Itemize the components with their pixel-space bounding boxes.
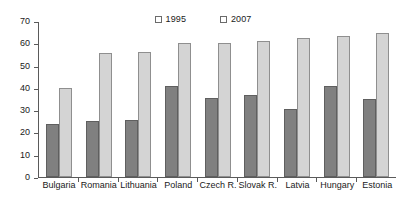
y-axis-tick-label: 60 xyxy=(20,38,30,49)
x-axis-label-Bulgaria: Bulgaria xyxy=(39,180,79,191)
bar-1995-Poland xyxy=(165,86,178,177)
bar-group xyxy=(317,22,357,177)
bar-1995-SlovakR xyxy=(244,95,257,177)
plot-area: 010203040506070 xyxy=(38,22,396,178)
bar-1995-CzechR xyxy=(205,98,218,177)
x-axis-label-Estonia: Estonia xyxy=(357,180,397,191)
bar-1995-Latvia xyxy=(284,109,297,177)
y-axis-tick: 70 xyxy=(34,22,38,23)
bar-1995-Lithuania xyxy=(125,120,138,177)
x-axis-label-Hungary: Hungary xyxy=(317,180,357,191)
bar-2007-Lithuania xyxy=(138,52,151,177)
y-axis-tick: 20 xyxy=(34,133,38,134)
y-axis-tick: 10 xyxy=(34,156,38,157)
bar-2007-SlovakR xyxy=(257,41,270,177)
bar-2007-CzechR xyxy=(218,43,231,177)
y-axis-tick: 30 xyxy=(34,111,38,112)
x-axis-label-Poland: Poland xyxy=(158,180,198,191)
x-axis-label-CzechR: Czech R. xyxy=(198,180,238,191)
bar-group xyxy=(158,22,198,177)
bar-group xyxy=(79,22,119,177)
bar-group xyxy=(356,22,396,177)
bar-1995-Estonia xyxy=(363,99,376,177)
bar-1995-Romania xyxy=(86,121,99,177)
bar-2007-Romania xyxy=(99,53,112,177)
bar-2007-Poland xyxy=(178,43,191,177)
y-axis-tick: 50 xyxy=(34,67,38,68)
y-axis-tick-label: 0 xyxy=(25,172,30,183)
y-axis-tick: 40 xyxy=(34,89,38,90)
x-axis-category-labels: BulgariaRomaniaLithuaniaPolandCzech R.Sl… xyxy=(39,180,397,191)
x-axis-line xyxy=(38,177,396,178)
bar-chart: 1995 2007 010203040506070 BulgariaRomani… xyxy=(0,0,406,219)
y-axis-tick-label: 10 xyxy=(20,150,30,161)
bar-groups xyxy=(39,22,396,177)
y-axis-tick: 0 xyxy=(34,178,38,179)
x-axis-label-Romania: Romania xyxy=(79,180,119,191)
bar-2007-Estonia xyxy=(376,33,389,177)
bar-group xyxy=(198,22,238,177)
x-axis-label-SlovakR: Slovak R. xyxy=(238,180,278,191)
bar-group xyxy=(237,22,277,177)
y-axis-tick-label: 50 xyxy=(20,61,30,72)
bar-2007-Hungary xyxy=(337,36,350,178)
bar-group xyxy=(39,22,79,177)
x-axis-label-Latvia: Latvia xyxy=(278,180,318,191)
bar-2007-Latvia xyxy=(297,38,310,177)
bar-group xyxy=(277,22,317,177)
y-axis-tick-label: 20 xyxy=(20,127,30,138)
x-axis-label-Lithuania: Lithuania xyxy=(119,180,159,191)
bar-1995-Bulgaria xyxy=(46,124,59,177)
y-axis-tick-label: 30 xyxy=(20,105,30,116)
y-axis-tick-label: 70 xyxy=(20,16,30,27)
bar-2007-Bulgaria xyxy=(59,88,72,177)
bar-group xyxy=(118,22,158,177)
y-axis-tick-label: 40 xyxy=(20,83,30,94)
bar-1995-Hungary xyxy=(324,86,337,177)
y-axis-tick: 60 xyxy=(34,44,38,45)
